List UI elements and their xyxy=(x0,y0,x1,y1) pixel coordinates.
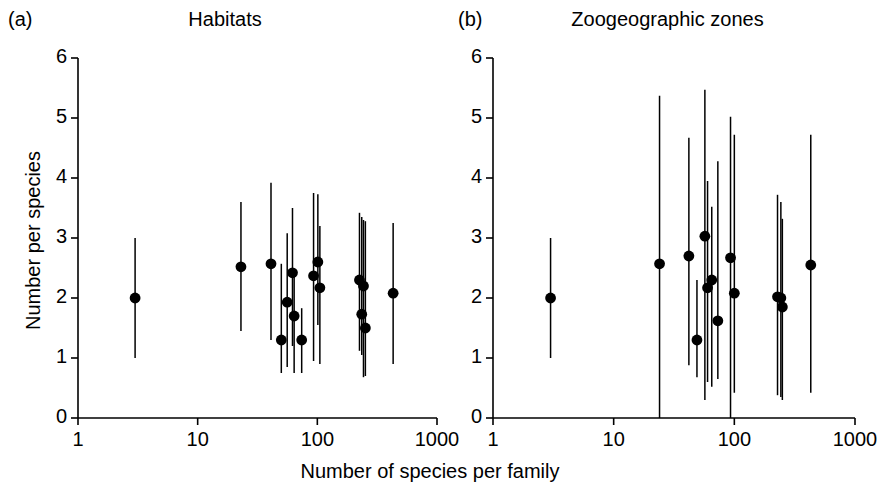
data-point xyxy=(358,281,369,292)
data-point xyxy=(236,261,247,272)
data-point xyxy=(312,257,323,268)
x-tick-label: 1000 xyxy=(833,428,878,451)
data-point xyxy=(276,335,287,346)
y-tick-label: 3 xyxy=(456,225,482,248)
data-point xyxy=(356,309,367,320)
data-point xyxy=(777,302,788,313)
x-axis-title: Number of species per family xyxy=(301,460,560,483)
data-point xyxy=(282,297,293,308)
x-tick-label: 100 xyxy=(718,428,751,451)
x-tick-label: 100 xyxy=(301,428,334,451)
panel-b: (b) Zoogeographic zones 0123456 11010010… xyxy=(450,0,885,499)
y-tick-label: 5 xyxy=(456,105,482,128)
y-tick-label: 6 xyxy=(456,45,482,68)
y-tick-label: 5 xyxy=(41,105,67,128)
x-tick-label: 1 xyxy=(487,428,498,451)
data-point xyxy=(699,231,710,242)
x-tick-label: 10 xyxy=(603,428,625,451)
data-point xyxy=(308,270,319,281)
data-point xyxy=(388,288,399,299)
data-point xyxy=(287,267,298,278)
y-tick-label: 0 xyxy=(456,405,482,428)
panel-a-plot xyxy=(0,0,450,499)
x-tick-label: 1 xyxy=(72,428,83,451)
y-tick-label: 1 xyxy=(456,345,482,368)
y-tick-label: 1 xyxy=(41,345,67,368)
panel-b-plot xyxy=(450,0,885,499)
data-point xyxy=(266,258,277,269)
data-point xyxy=(725,252,736,263)
data-point xyxy=(706,275,717,286)
panel-a: (a) Habitats 0123456 1101001000 Number p… xyxy=(0,0,450,499)
data-point xyxy=(654,258,665,269)
data-point xyxy=(692,335,703,346)
figure-container: (a) Habitats 0123456 1101001000 Number p… xyxy=(0,0,885,499)
y-tick-label: 4 xyxy=(456,165,482,188)
data-point xyxy=(712,315,723,326)
data-point xyxy=(360,323,371,334)
data-point xyxy=(805,260,816,271)
data-point xyxy=(775,293,786,304)
y-tick-label: 2 xyxy=(456,285,482,308)
data-point xyxy=(683,251,694,262)
y-tick-label: 0 xyxy=(41,405,67,428)
y-tick-label: 6 xyxy=(41,45,67,68)
data-point xyxy=(545,293,556,304)
x-tick-label: 10 xyxy=(187,428,209,451)
data-point xyxy=(729,288,740,299)
data-point xyxy=(289,311,300,322)
data-point xyxy=(296,335,307,346)
panel-a-y-axis-title: Number per species xyxy=(22,151,45,330)
data-point xyxy=(314,282,325,293)
data-point xyxy=(130,293,141,304)
